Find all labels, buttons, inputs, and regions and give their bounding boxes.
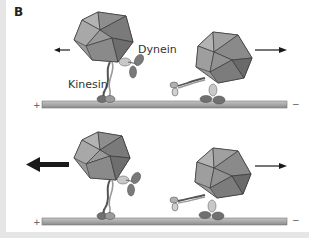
arrow-left-bottom xyxy=(26,157,69,172)
dynein-head xyxy=(128,184,135,196)
arrow-right-top xyxy=(255,47,287,53)
dynein-motor-bottom-right xyxy=(199,200,224,220)
dynein-label: Dynein xyxy=(138,43,177,56)
plus-end-label-top: + xyxy=(33,100,41,110)
plus-end-label-bottom: + xyxy=(33,217,41,227)
kinesin-motor-bottom-left xyxy=(97,180,115,220)
kinesin-motor-top-right xyxy=(170,78,205,96)
cargo-right-bottom xyxy=(195,148,251,198)
dynein-head xyxy=(200,96,212,103)
kinesin-head xyxy=(172,88,178,96)
dynein-ring xyxy=(209,84,217,96)
arrow-left-icon xyxy=(54,48,60,53)
microtubule-bottom xyxy=(42,218,287,225)
arrow-right-bottom xyxy=(255,163,287,169)
minus-end-label-bottom: − xyxy=(292,215,300,225)
arrow-right-icon xyxy=(279,47,287,53)
microtubule-top xyxy=(42,101,287,108)
motor-transport-diagram: + − Kinesin Dynein xyxy=(0,0,309,238)
arrow-left-top xyxy=(54,48,70,53)
kinesin-label: Kinesin xyxy=(68,78,108,91)
dynein-head xyxy=(130,66,137,78)
dynein-ring xyxy=(208,200,216,212)
arrow-right-icon xyxy=(279,163,287,169)
dynein-motor-top-left xyxy=(119,53,145,78)
dynein-head xyxy=(199,212,211,219)
top-row: + − Kinesin Dynein xyxy=(33,12,300,110)
cargo-right-top xyxy=(196,32,252,83)
dynein-head xyxy=(213,96,225,104)
arrow-shaft xyxy=(38,162,69,167)
minus-end-label-top: − xyxy=(292,99,300,109)
kinesin-motor-bottom-right xyxy=(170,195,205,211)
cargo-left-top xyxy=(74,12,133,62)
cargo-left-bottom xyxy=(74,132,130,180)
dynein-head xyxy=(130,171,143,185)
kinesin-head xyxy=(105,96,115,103)
kinesin-stalk xyxy=(178,78,205,86)
dynein-motor-bottom-left xyxy=(117,171,142,196)
kinesin-head xyxy=(170,197,178,203)
dynein-head xyxy=(212,212,224,220)
kinesin-head xyxy=(105,213,115,220)
kinesin-head xyxy=(172,203,178,211)
kinesin-head xyxy=(170,82,178,88)
bottom-row: + − xyxy=(26,132,300,227)
arrow-left-thick-icon xyxy=(26,157,40,172)
